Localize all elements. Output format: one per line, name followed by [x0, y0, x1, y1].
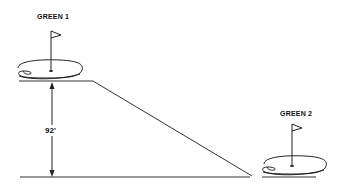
green-2-label: GREEN 2: [280, 110, 312, 117]
green-2-icon: [263, 124, 327, 175]
elevation-dimension: 92': [45, 82, 56, 177]
elevation-diagram: GREEN 1 GREEN 2 92': [0, 0, 342, 189]
green-1-icon: [18, 31, 82, 79]
arrow-down-icon: [50, 170, 55, 177]
elevation-label: 92': [45, 126, 56, 135]
arrow-up-icon: [50, 82, 55, 89]
green-1-label: GREEN 1: [37, 13, 69, 20]
